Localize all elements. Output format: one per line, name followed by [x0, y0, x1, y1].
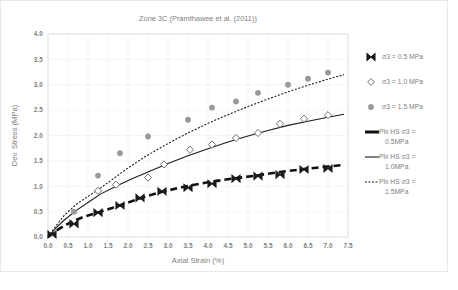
data-point-bowtie [70, 220, 78, 227]
legend-marker-diamond [368, 79, 375, 86]
legend-marker-bowtie [367, 54, 375, 61]
legend-marker-circle [368, 104, 374, 110]
y-tick-label: 0.5 [34, 208, 44, 215]
x-axis-title: Axial Strain (%) [172, 256, 225, 265]
data-point-circle [185, 117, 191, 123]
series-line [48, 75, 344, 237]
x-tick-label: 6.0 [283, 242, 293, 249]
legend-label-cont: 1.0MPa [385, 163, 409, 170]
data-point-circle [305, 76, 311, 82]
chart-figure: Zone 3C (Pramthawee et al. (2011))0.00.5… [0, 0, 448, 272]
legend-label[interactable]: σ3 = 1.0 MPa [382, 78, 423, 85]
x-tick-label: 7.0 [323, 242, 333, 249]
legend-label[interactable]: σ3 = 1.5 MPa [382, 103, 423, 110]
data-point-circle [285, 82, 291, 88]
x-tick-label: 0.0 [43, 242, 53, 249]
data-point-bowtie [158, 188, 166, 195]
legend-label-cont: 0.5MPa [385, 138, 409, 145]
data-point-diamond [144, 174, 151, 181]
x-tick-label: 3.0 [163, 242, 173, 249]
data-point-diamond [186, 146, 193, 153]
x-tick-label: 2.5 [143, 242, 153, 249]
series-line [48, 114, 344, 237]
data-point-circle [71, 209, 77, 215]
x-tick-label: 2.0 [123, 242, 133, 249]
y-tick-label: 2.0 [34, 132, 44, 139]
data-point-bowtie [300, 166, 308, 173]
x-tick-label: 6.5 [303, 242, 313, 249]
y-tick-label: 2.5 [34, 106, 44, 113]
data-point-bowtie [232, 175, 240, 182]
x-tick-label: 1.0 [83, 242, 93, 249]
data-point-circle [117, 150, 123, 156]
y-tick-label: 3.0 [34, 81, 44, 88]
data-point-circle [209, 105, 215, 111]
y-axis-title: Dev. Stress (MPa) [10, 104, 19, 166]
y-tick-label: 3.5 [34, 56, 44, 63]
chart-title: Zone 3C (Pramthawee et al. (2011)) [139, 14, 257, 23]
chart-canvas: Zone 3C (Pramthawee et al. (2011))0.00.5… [1, 1, 449, 273]
x-tick-label: 5.5 [263, 242, 273, 249]
data-point-bowtie [136, 195, 144, 202]
legend-label[interactable]: Plx HS σ3 = [379, 178, 416, 185]
legend-label[interactable]: Plx HS σ3 = [379, 153, 416, 160]
x-tick-label: 7.5 [343, 242, 353, 249]
x-tick-label: 0.5 [63, 242, 73, 249]
legend-label[interactable]: Plx HS σ3 = [379, 128, 416, 135]
data-point-circle [145, 134, 151, 140]
legend-label[interactable]: σ3 = 0.5 MPa [382, 53, 423, 60]
x-tick-label: 3.5 [183, 242, 193, 249]
x-tick-label: 5.0 [243, 242, 253, 249]
data-point-circle [233, 99, 239, 105]
data-point-diamond [160, 161, 167, 168]
data-point-circle [255, 90, 261, 96]
data-point-diamond [208, 141, 215, 148]
x-tick-label: 4.0 [203, 242, 213, 249]
series-line [48, 165, 344, 237]
y-tick-label: 1.0 [34, 183, 44, 190]
y-tick-label: 4.0 [34, 30, 44, 37]
y-tick-label: 0.0 [34, 233, 44, 240]
data-point-bowtie [94, 209, 102, 216]
legend-label-cont: 1.5MPa [385, 188, 409, 195]
data-point-circle [325, 70, 331, 76]
x-tick-label: 4.5 [223, 242, 233, 249]
y-tick-label: 1.5 [34, 157, 44, 164]
data-point-bowtie [116, 202, 124, 209]
data-point-bowtie [254, 173, 262, 180]
x-tick-label: 1.5 [103, 242, 113, 249]
data-point-circle [95, 173, 101, 179]
